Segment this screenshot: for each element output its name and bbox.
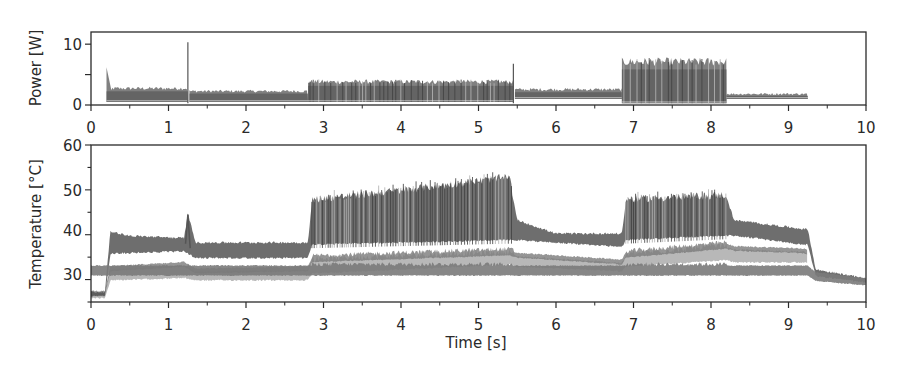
temp-ytick-50: 50 bbox=[63, 182, 82, 200]
x-tick-label: 10 bbox=[856, 119, 875, 137]
temp-ytick-30: 30 bbox=[63, 266, 82, 284]
x-tick-label: 3 bbox=[319, 119, 329, 137]
x-tick-label: 5 bbox=[474, 119, 484, 137]
x-tick-label: 7 bbox=[629, 316, 639, 334]
x-tick-label: 2 bbox=[241, 119, 251, 137]
x-tick-label: 6 bbox=[551, 119, 561, 137]
temperature-x-ticks bbox=[91, 302, 866, 308]
temperature-y-ticks bbox=[85, 145, 91, 302]
x-tick-label: 7 bbox=[629, 119, 639, 137]
temperature-y-axis-label: Temperature [°C] bbox=[27, 159, 45, 289]
power-ytick-10: 10 bbox=[63, 36, 82, 54]
x-tick-label: 9 bbox=[784, 119, 794, 137]
power-x-ticks bbox=[91, 105, 866, 111]
x-tick-label: 0 bbox=[86, 119, 96, 137]
x-tick-label: 10 bbox=[856, 316, 875, 334]
temp-ytick-60: 60 bbox=[63, 137, 82, 155]
x-tick-label: 9 bbox=[784, 316, 794, 334]
power-y-ticks bbox=[85, 44, 91, 105]
x-tick-label: 3 bbox=[319, 316, 329, 334]
temperature-panel: 30 40 50 60 012345678910 Temperature [°C… bbox=[27, 137, 876, 352]
power-ytick-0: 0 bbox=[72, 96, 82, 114]
temp-ytick-40: 40 bbox=[63, 222, 82, 240]
x-tick-label: 8 bbox=[706, 119, 716, 137]
x-tick-label: 1 bbox=[164, 119, 174, 137]
figure: 10 0 012345678910 Power [W] 30 40 50 60 … bbox=[0, 0, 899, 370]
power-traces bbox=[107, 42, 808, 103]
temperature-traces bbox=[91, 172, 866, 299]
x-tick-label: 6 bbox=[551, 316, 561, 334]
x-tick-label: 2 bbox=[241, 316, 251, 334]
power-x-tick-labels: 012345678910 bbox=[86, 119, 875, 137]
x-tick-label: 4 bbox=[396, 316, 406, 334]
x-tick-label: 1 bbox=[164, 316, 174, 334]
temperature-x-tick-labels: 012345678910 bbox=[86, 316, 875, 334]
time-x-axis-label: Time [s] bbox=[445, 334, 507, 352]
power-panel: 10 0 012345678910 Power [W] bbox=[27, 30, 876, 137]
power-y-axis-label: Power [W] bbox=[27, 30, 45, 107]
x-tick-label: 8 bbox=[706, 316, 716, 334]
x-tick-label: 5 bbox=[474, 316, 484, 334]
x-tick-label: 0 bbox=[86, 316, 96, 334]
x-tick-label: 4 bbox=[396, 119, 406, 137]
